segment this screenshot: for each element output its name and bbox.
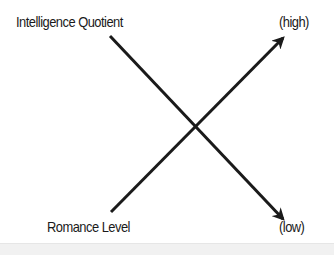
- romance-level-label: Romance Level: [47, 219, 130, 234]
- diagram-canvas: Intelligence Quotient (high) Romance Lev…: [0, 0, 334, 243]
- low-label: (low): [279, 219, 304, 234]
- high-label: (high): [279, 14, 309, 29]
- footer-band: [0, 243, 334, 255]
- intelligence-quotient-label: Intelligence Quotient: [16, 14, 123, 29]
- crossing-lines-graphic: [0, 0, 334, 243]
